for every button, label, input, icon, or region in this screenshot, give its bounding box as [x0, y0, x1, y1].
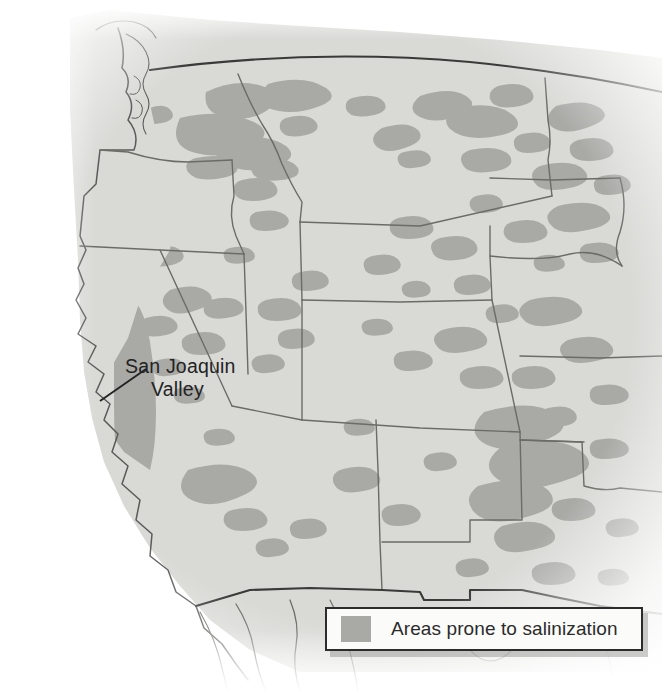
map-label-line2: Valley [125, 378, 236, 401]
legend-label-salinization: Areas prone to salinization [391, 618, 618, 640]
vignette-radial [0, 0, 662, 693]
fade-top [0, 0, 662, 40]
legend-swatch-salinization [341, 616, 371, 642]
fade-left [0, 0, 96, 693]
map-figure: San Joaquin Valley Areas prone to salini… [0, 0, 662, 693]
map-canvas [0, 0, 662, 693]
map-legend: Areas prone to salinization [325, 607, 643, 651]
map-label-san-joaquin-valley: San Joaquin Valley [125, 355, 236, 401]
map-label-line1: San Joaquin [125, 355, 236, 377]
